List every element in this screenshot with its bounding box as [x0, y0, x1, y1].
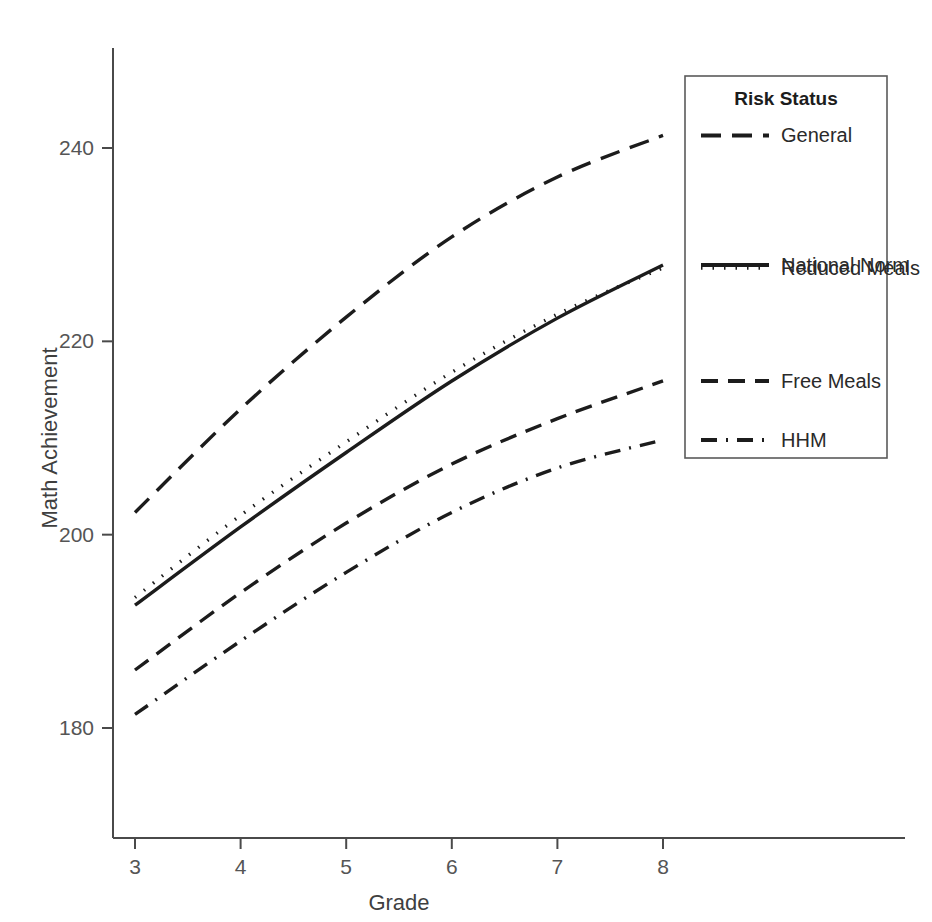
x-axis-title: Grade	[368, 890, 429, 915]
series-line	[135, 135, 663, 512]
legend-label: General	[781, 124, 852, 146]
x-axis-tick-label: 8	[657, 855, 669, 878]
x-axis-tick-label: 5	[340, 855, 352, 878]
series-line	[135, 440, 663, 715]
y-axis-tick-label: 240	[59, 136, 94, 159]
x-axis-tick-label: 6	[446, 855, 458, 878]
legend-label: HHM	[781, 429, 827, 451]
x-axis-tick-label: 7	[552, 855, 564, 878]
legend-title: Risk Status	[734, 88, 837, 109]
series-group	[135, 135, 663, 714]
y-axis-tick-label: 220	[59, 329, 94, 352]
math-achievement-line-chart: 180200220240345678GradeMath Achievement …	[0, 0, 932, 922]
series-line	[135, 381, 663, 670]
x-axis-tick-label: 4	[235, 855, 247, 878]
legend-label: Free Meals	[781, 370, 881, 392]
y-axis-tick-label: 180	[59, 716, 94, 739]
y-axis-title: Math Achievement	[37, 348, 62, 529]
legend-label: Reduced Meals	[781, 257, 920, 279]
y-axis-tick-label: 200	[59, 523, 94, 546]
chart-canvas: 180200220240345678GradeMath Achievement …	[0, 0, 932, 922]
legend-group: Risk StatusGeneralNational NormReduced M…	[685, 76, 920, 458]
x-axis-tick-label: 3	[129, 855, 141, 878]
